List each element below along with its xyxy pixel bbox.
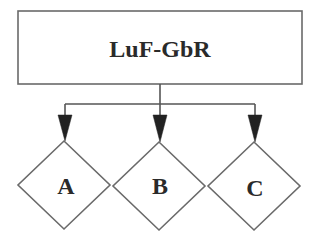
root-label: LuF-GbR — [109, 36, 211, 62]
arrow-down-icon-c — [248, 115, 262, 142]
child-node-b: B — [113, 142, 205, 230]
child-node-c: C — [208, 142, 300, 230]
arrow-down-icon-a — [58, 115, 72, 141]
child-label-b: B — [152, 173, 168, 199]
child-node-a: A — [18, 141, 110, 229]
connectors — [58, 84, 262, 142]
org-chart-diagram: LuF-GbR A B C — [0, 0, 313, 246]
root-node: LuF-GbR — [18, 11, 302, 84]
child-label-a: A — [57, 173, 75, 199]
child-label-c: C — [246, 175, 263, 201]
arrow-down-icon-b — [153, 115, 167, 142]
